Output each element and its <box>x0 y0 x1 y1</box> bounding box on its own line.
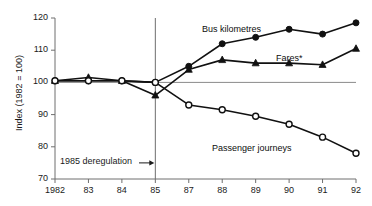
data-point-marker <box>186 102 192 108</box>
data-point-marker <box>152 79 158 85</box>
data-point-marker <box>219 41 225 47</box>
y-tick-label: 80 <box>22 141 48 151</box>
x-tick-label: 91 <box>306 185 340 195</box>
data-point-marker <box>320 31 326 37</box>
x-tick-label: 88 <box>205 185 239 195</box>
plot-area <box>0 0 372 206</box>
data-point-marker <box>119 78 125 84</box>
data-point-marker <box>253 113 259 119</box>
series-label-fares: Fares* <box>276 53 303 63</box>
data-point-marker <box>353 150 359 156</box>
y-tick-label: 70 <box>22 173 48 183</box>
data-point-marker <box>219 107 225 113</box>
data-point-marker <box>286 121 292 127</box>
data-point-marker <box>52 78 58 84</box>
data-point-marker <box>353 20 359 26</box>
annotation-arrow-group <box>139 160 154 165</box>
x-tick-label: 90 <box>272 185 306 195</box>
data-point-marker <box>253 34 259 40</box>
x-tick-label: 89 <box>239 185 273 195</box>
y-tick-label: 110 <box>22 44 48 54</box>
x-tick-label: 84 <box>105 185 139 195</box>
bus-industry-index-chart: Index (1982 = 100) 708090100110120 19828… <box>0 0 372 206</box>
series-label-passenger-journeys: Passenger journeys <box>212 143 292 153</box>
y-tick-label: 90 <box>22 109 48 119</box>
x-tick-label: 1982 <box>38 185 72 195</box>
axis-spine <box>55 18 356 179</box>
data-point-marker <box>85 78 91 84</box>
x-tick-label: 87 <box>172 185 206 195</box>
data-point-marker <box>320 134 326 140</box>
data-point-marker <box>286 26 292 32</box>
deregulation-annotation-label: 1985 deregulation <box>60 156 132 166</box>
annotation-arrow-head <box>149 160 154 165</box>
series-label-bus-kilometres: Bus kilometres <box>202 24 261 34</box>
y-tick-label: 120 <box>22 12 48 22</box>
series-markers-group <box>52 20 360 156</box>
y-tick-label: 100 <box>22 76 48 86</box>
x-tick-label: 92 <box>339 185 372 195</box>
x-tick-label: 83 <box>71 185 105 195</box>
data-point-marker <box>353 45 360 52</box>
series-line-passenger-journeys <box>55 81 356 153</box>
series-lines-group <box>55 23 356 153</box>
x-tick-label: 85 <box>138 185 172 195</box>
